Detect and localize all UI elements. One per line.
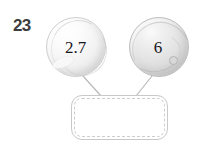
answer-box[interactable] [71,95,168,140]
connector-line-right [136,76,152,96]
connector-line-left [83,76,101,96]
problem-number: 23 [13,17,31,34]
part-value-left: 2.7 [65,38,87,56]
answer-box-dashed-border [74,98,165,137]
worksheet-item: 23 2.7 6 [0,0,204,151]
part-ball-left[interactable]: 2.7 [46,17,106,77]
part-value-right: 6 [154,38,165,56]
ball-dot-icon [169,56,178,65]
part-ball-right[interactable]: 6 [129,17,189,77]
